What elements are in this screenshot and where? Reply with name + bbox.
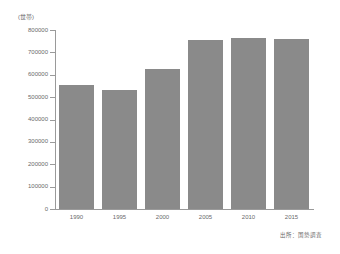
bar[interactable] (59, 85, 93, 209)
y-axis-tick-label: 0 (45, 206, 48, 212)
x-axis-tick-label: 2000 (141, 214, 184, 220)
x-axis-tick-label: 1990 (55, 214, 98, 220)
y-axis-tick-label: 600000 (28, 71, 48, 77)
bar-slot (98, 30, 141, 209)
y-axis-tick-label: 800000 (28, 27, 48, 33)
bar-slot (184, 30, 227, 209)
y-axis-unit-label: (世帯) (18, 12, 34, 21)
x-axis-tick-label: 2005 (184, 214, 227, 220)
bar-slot (227, 30, 270, 209)
y-axis-tick-label: 500000 (28, 94, 48, 100)
bar[interactable] (188, 40, 222, 209)
bar[interactable] (145, 69, 179, 210)
plot-area (55, 30, 313, 209)
bar[interactable] (274, 39, 308, 209)
bar-chart-figure: (世帯) 01000002000003000004000005000006000… (0, 0, 340, 254)
x-axis-line (55, 209, 314, 210)
x-axis-tick-label: 1995 (98, 214, 141, 220)
x-axis-tick-label: 2015 (270, 214, 313, 220)
y-axis-tick-label: 100000 (28, 183, 48, 189)
bar-slot (55, 30, 98, 209)
bar[interactable] (102, 90, 136, 209)
y-axis-tick-label: 400000 (28, 116, 48, 122)
y-axis-tick-label: 300000 (28, 138, 48, 144)
bar[interactable] (231, 38, 265, 209)
y-axis-tick-label: 200000 (28, 161, 48, 167)
y-axis-tick-label: 700000 (28, 49, 48, 55)
bar-slot (270, 30, 313, 209)
y-axis-tick (50, 209, 55, 210)
source-note: 出所：国勢調査 (280, 231, 322, 239)
x-axis-tick-label: 2010 (227, 214, 270, 220)
bar-slot (141, 30, 184, 209)
